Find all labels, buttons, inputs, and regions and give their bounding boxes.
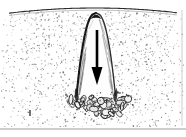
stipple-dot: [73, 126, 74, 127]
stipple-dot: [76, 68, 77, 69]
stipple-dot: [58, 19, 59, 20]
stipple-dot: [164, 35, 165, 36]
stipple-dot: [73, 23, 74, 24]
stipple-dot: [14, 51, 15, 52]
stipple-dot: [174, 30, 175, 31]
stipple-dot: [107, 120, 108, 121]
stipple-dot: [111, 23, 113, 25]
stipple-dot: [170, 121, 171, 122]
stipple-dot: [145, 48, 147, 50]
stipple-dot: [14, 67, 15, 68]
stipple-dot: [56, 84, 58, 86]
stipple-dot: [149, 126, 151, 128]
stipple-dot: [26, 88, 27, 89]
stipple-dot: [37, 119, 39, 121]
rubble-speck: [100, 92, 101, 93]
stipple-dot: [58, 107, 59, 108]
stipple-dot: [169, 46, 170, 47]
stipple-dot: [76, 78, 77, 79]
rubble-speck: [80, 99, 82, 101]
rubble-speck: [112, 111, 114, 113]
stipple-dot: [27, 29, 28, 30]
stipple-dot: [16, 20, 17, 21]
rubble-speck: [109, 99, 110, 100]
stipple-dot: [1, 90, 2, 91]
stipple-dot: [50, 85, 51, 86]
stipple-dot: [63, 90, 65, 92]
stipple-dot: [162, 18, 163, 19]
stipple-dot: [45, 39, 47, 41]
stipple-dot: [46, 96, 47, 97]
stipple-dot: [4, 20, 5, 21]
stipple-dot: [157, 127, 158, 128]
stipple-dot: [121, 86, 122, 87]
stipple-dot: [117, 39, 118, 40]
rubble-fragment: [69, 94, 74, 104]
stipple-dot: [149, 94, 150, 95]
stipple-dot: [157, 21, 158, 22]
stipple-dot: [116, 67, 118, 69]
rubble-speck: [89, 115, 90, 116]
rubble-speck: [115, 103, 117, 105]
stipple-dot: [24, 44, 25, 45]
stipple-dot: [1, 87, 2, 88]
stipple-dot: [57, 21, 58, 22]
stipple-dot: [72, 121, 73, 122]
stipple-dot: [76, 23, 77, 24]
stipple-dot: [74, 67, 75, 68]
stipple-dot: [153, 125, 154, 126]
rubble-speck: [93, 120, 95, 122]
stipple-dot: [82, 126, 83, 127]
stipple-dot: [84, 20, 86, 22]
rubble-speck: [73, 116, 75, 118]
stipple-dot: [87, 15, 88, 16]
stipple-dot: [116, 54, 117, 55]
stipple-dot: [143, 54, 145, 56]
stipple-dot: [118, 13, 119, 14]
stipple-dot: [30, 101, 32, 103]
stipple-dot: [45, 95, 46, 96]
stipple-dot: [78, 121, 79, 122]
rubble-speck: [107, 117, 108, 118]
stipple-dot: [140, 58, 141, 59]
stipple-dot: [144, 76, 145, 77]
rubble-speck: [100, 107, 102, 109]
stipple-dot: [55, 94, 56, 95]
stipple-dot: [129, 16, 130, 17]
stipple-dot: [140, 96, 141, 97]
stipple-dot: [51, 36, 52, 37]
stipple-dot: [35, 86, 36, 87]
stipple-dot: [125, 13, 127, 15]
rubble-speck: [132, 104, 134, 106]
stipple-dot: [111, 29, 112, 30]
stipple-dot: [165, 35, 166, 36]
rubble-speck: [120, 98, 122, 100]
stipple-dot: [155, 57, 156, 58]
stipple-dot: [149, 107, 150, 108]
stipple-dot: [153, 122, 154, 123]
stipple-dot: [30, 61, 31, 62]
stipple-dot: [17, 58, 18, 59]
stipple-dot: [171, 107, 172, 108]
stipple-dot: [157, 68, 158, 69]
rubble-speck: [108, 109, 110, 111]
stipple-dot: [10, 19, 11, 20]
rubble-speck: [127, 104, 129, 106]
stipple-dot: [41, 64, 42, 65]
stipple-dot: [142, 114, 143, 115]
stipple-dot: [109, 36, 110, 37]
stipple-dot: [178, 46, 179, 47]
stipple-dot: [49, 124, 50, 125]
stipple-dot: [42, 14, 44, 16]
stipple-dot: [54, 36, 55, 37]
stipple-dot: [157, 120, 159, 122]
stipple-dot: [27, 109, 28, 110]
stipple-dot: [64, 106, 66, 108]
stipple-dot: [59, 14, 60, 15]
stipple-dot: [122, 22, 123, 23]
rubble-speck: [104, 97, 106, 99]
stipple-dot: [3, 89, 4, 90]
stipple-dot: [72, 30, 73, 31]
stipple-dot: [168, 125, 169, 126]
rubble-speck: [80, 111, 81, 112]
